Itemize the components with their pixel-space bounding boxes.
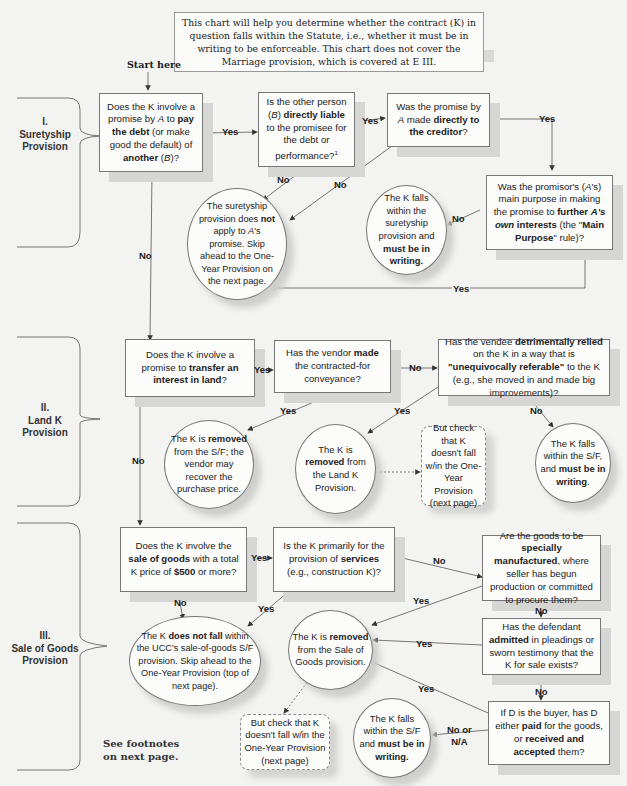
node-removed-from-sf: The K is removed from the S/F; the vendo…: [164, 420, 254, 509]
node-vendor-made-conveyance: Has the vendor made the contracted-for c…: [274, 340, 391, 393]
edge-label-no: No: [409, 362, 422, 373]
start-label: Start here: [127, 59, 181, 70]
edge-label-yes: Yes: [254, 364, 270, 375]
node-interest-in-land: Does the K involve a promise to transfer…: [125, 339, 255, 397]
section-label-suretyship: I.SuretyshipProvision: [12, 116, 78, 154]
edge-label-no: No: [132, 455, 145, 466]
edge-label-no: No: [334, 179, 347, 190]
node-check-one-year-land: But check that K doesn't fall w/in the O…: [421, 426, 486, 506]
node-suretyship-pay-debt: Does the K involve a promise by A to pay…: [99, 93, 203, 172]
node-defendant-admitted: Has the defendant admitted in pleadings …: [482, 618, 601, 675]
node-land-must-write: The K falls within the S/F, and must be …: [535, 423, 611, 503]
node-main-purpose: Was the promisor's (A's) main purpose in…: [486, 175, 613, 250]
edge-label-yes: Yes: [416, 638, 432, 649]
edge-label-yes: Yes: [539, 113, 555, 124]
edge-label-yes: Yes: [452, 283, 470, 294]
edge-label-yes: Yes: [362, 115, 378, 126]
node-check-one-year-goods: But check that K doesn't fall w/in the O…: [240, 714, 330, 770]
edge-label-no: No: [530, 405, 543, 416]
node-sale-of-goods: Does the K involve the sale of goods wit…: [120, 527, 247, 592]
edge-label-yes: Yes: [251, 552, 267, 563]
edge-label-yes: Yes: [418, 683, 434, 694]
edge-label-no: No: [433, 555, 446, 566]
node-specially-manufactured: Are the goods to be specially manufactur…: [482, 535, 601, 601]
edge-label-no: No: [277, 174, 290, 185]
edge-label-yes: Yes: [222, 126, 238, 137]
footnote-note: See footnoteson next page.: [103, 737, 179, 763]
node-detrimental-reliance: Has the vendee detrimentally relied on t…: [438, 339, 610, 396]
edge-label-no: No: [535, 686, 548, 697]
node-suretyship-must-write: The K falls within the suretyship provis…: [366, 185, 447, 275]
node-directly-to-creditor: Was the promise by A made directly to th…: [387, 93, 490, 147]
section-label-land: II.Land KProvision: [12, 402, 78, 440]
node-paid-or-accepted: If D is the buyer, has D either paid for…: [488, 701, 610, 765]
section-label-sale-of-goods: III.Sale of GoodsProvision: [4, 630, 86, 668]
node-removed-from-sale-of-goods: The K is removed from the Sale of Goods …: [288, 610, 373, 690]
node-goods-must-write: The K falls within the S/F and must be i…: [353, 698, 431, 778]
node-suretyship-not-apply: The suretyship provision does not apply …: [187, 188, 287, 300]
edge-label-no: No: [535, 605, 548, 616]
node-directly-liable: Is the other person (B) directly liable …: [258, 92, 355, 167]
edge-label-no-or-na: No orN/A: [447, 724, 472, 748]
edge-label-yes: Yes: [280, 405, 296, 416]
node-removed-from-land: The K is removed from the Land K Provisi…: [295, 424, 376, 514]
node-does-not-fall-ucc: The K does not fall within the UCC's sal…: [129, 616, 261, 706]
edge-label-no: No: [139, 250, 152, 261]
edge-label-yes: Yes: [413, 595, 429, 606]
edge-label-yes: Yes: [394, 405, 410, 416]
edge-label-no: No: [452, 213, 465, 224]
edge-label-no: No: [174, 597, 187, 608]
edge-label-yes: Yes: [258, 603, 274, 614]
node-services: Is the K primarily for the provision of …: [273, 527, 395, 592]
